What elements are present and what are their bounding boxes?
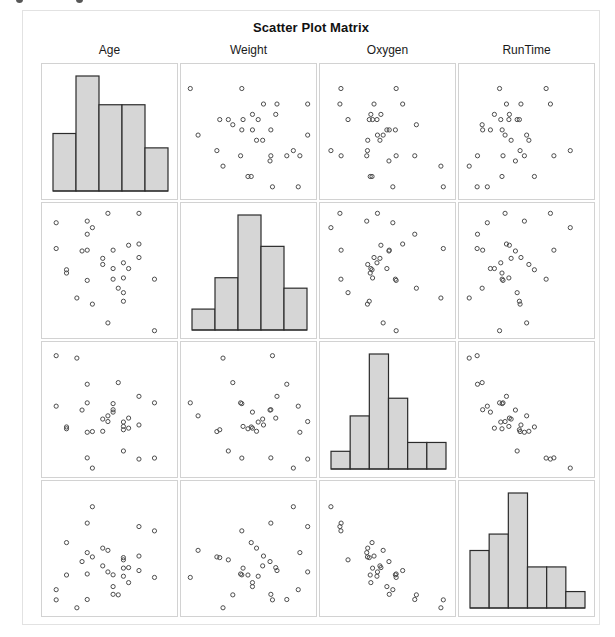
data-point — [111, 266, 115, 270]
data-point — [90, 555, 94, 559]
histogram-cell-weight — [179, 201, 318, 340]
histogram-plot — [320, 342, 456, 478]
scatter-plot — [320, 64, 456, 200]
data-point — [296, 588, 300, 592]
scatter-plot — [459, 203, 595, 339]
data-point — [101, 262, 105, 266]
data-point — [137, 554, 141, 558]
data-point — [226, 558, 230, 562]
data-point — [270, 354, 274, 358]
data-point — [387, 592, 391, 596]
data-point — [111, 584, 115, 588]
data-point — [306, 570, 310, 574]
data-point — [365, 551, 369, 555]
panel — [180, 202, 317, 339]
data-point — [137, 524, 141, 528]
data-point — [503, 211, 507, 215]
data-point — [85, 572, 89, 576]
panel — [180, 63, 317, 200]
data-point — [85, 382, 89, 386]
data-point — [106, 321, 110, 325]
data-point — [381, 133, 385, 137]
data-point — [394, 154, 398, 158]
data-point — [485, 221, 489, 225]
data-point — [85, 278, 89, 282]
histogram-bar — [389, 398, 408, 469]
data-point — [274, 112, 278, 116]
data-point — [499, 261, 503, 265]
histogram-bar — [76, 76, 99, 191]
data-point — [497, 329, 501, 333]
data-point — [90, 466, 94, 470]
data-point — [106, 419, 110, 423]
data-point — [481, 128, 485, 132]
data-point — [231, 381, 235, 385]
data-point — [513, 159, 517, 163]
data-point — [269, 128, 273, 132]
data-point — [519, 423, 523, 427]
data-point — [329, 149, 333, 153]
scatter-cell-weight-vs-age — [40, 201, 179, 340]
data-point — [375, 261, 379, 265]
data-point — [346, 291, 350, 295]
data-point — [261, 554, 265, 558]
data-point — [90, 302, 94, 306]
data-point — [256, 420, 260, 424]
panel — [458, 202, 595, 339]
column-header-oxygen: Oxygen — [318, 43, 457, 57]
panel — [180, 480, 317, 617]
data-point — [116, 593, 120, 597]
data-point — [375, 574, 379, 578]
scatter-plot — [42, 481, 178, 617]
data-point — [413, 232, 417, 236]
data-point — [480, 286, 484, 290]
data-point — [64, 541, 68, 545]
scatter-cell-runtime-vs-weight — [179, 479, 318, 618]
data-point — [532, 425, 536, 429]
data-point — [111, 277, 115, 281]
scatter-plot — [181, 64, 317, 200]
data-point — [507, 424, 511, 428]
histogram-bar — [528, 567, 547, 608]
data-point — [254, 138, 258, 142]
scatter-plot-matrix-figure: Scatter Plot Matrix AgeWeightOxygenRunTi… — [0, 0, 615, 637]
scatter-cell-weight-vs-runtime — [457, 201, 596, 340]
data-point — [366, 546, 370, 550]
data-point — [391, 588, 395, 592]
data-point — [240, 529, 244, 533]
data-point — [381, 321, 385, 325]
data-point — [285, 382, 289, 386]
data-point — [291, 505, 295, 509]
data-point — [137, 394, 141, 398]
data-point — [306, 133, 310, 137]
data-point — [306, 419, 310, 423]
data-point — [121, 449, 125, 453]
data-point — [370, 541, 374, 545]
data-point — [375, 133, 379, 137]
data-point — [485, 185, 489, 189]
data-point — [250, 112, 254, 116]
data-point — [275, 394, 279, 398]
data-point — [339, 86, 343, 90]
data-point — [291, 149, 295, 153]
data-point — [441, 598, 445, 602]
data-point — [338, 211, 342, 215]
scatter-plot — [181, 481, 317, 617]
data-point — [221, 356, 225, 360]
data-point — [568, 226, 572, 230]
histogram-bar — [192, 309, 215, 330]
data-point — [261, 102, 265, 106]
data-point — [480, 123, 484, 127]
data-point — [441, 185, 445, 189]
panel — [180, 341, 317, 478]
data-point — [522, 219, 526, 223]
data-point — [306, 524, 310, 528]
data-point — [527, 429, 531, 433]
histogram-bar — [331, 451, 350, 469]
data-point — [500, 271, 504, 275]
data-point — [218, 117, 222, 121]
histogram-bar — [261, 246, 284, 330]
data-point — [339, 154, 343, 158]
data-point — [188, 575, 192, 579]
data-point — [365, 149, 369, 153]
